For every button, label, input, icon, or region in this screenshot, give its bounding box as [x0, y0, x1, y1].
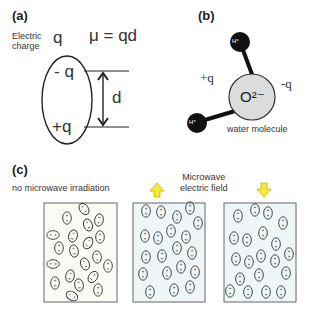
arrow-up-icon [150, 183, 164, 197]
box-random [44, 203, 117, 302]
panel-c-graphics: + + [0, 0, 310, 322]
arrow-down-icon [257, 183, 271, 197]
